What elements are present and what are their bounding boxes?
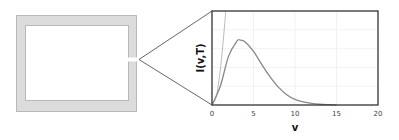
y-axis-label: I(v,T) — [195, 43, 206, 72]
x-tick-label: 10 — [291, 110, 300, 118]
x-tick-label: 0 — [210, 110, 214, 118]
x-tick-labels: 05101520 — [210, 110, 383, 118]
cavity-opening — [128, 58, 138, 62]
x-tick-label: 15 — [332, 110, 341, 118]
x-tick-label: 5 — [251, 110, 255, 118]
blackbody-diagram: 05101520 v I(v,T) — [0, 0, 399, 140]
cavity — [17, 16, 139, 112]
cavity-interior — [26, 26, 129, 101]
x-axis-label: v — [292, 122, 299, 133]
plot: 05101520 v I(v,T) — [195, 11, 382, 133]
x-tick-label: 20 — [374, 110, 383, 118]
